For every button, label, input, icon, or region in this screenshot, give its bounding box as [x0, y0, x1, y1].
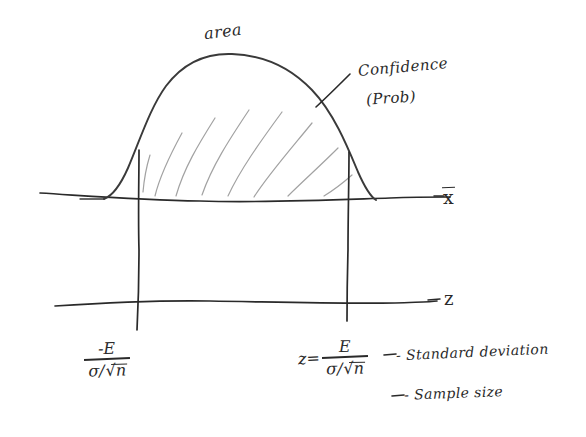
- right-confidence-bound-line: [347, 152, 349, 321]
- left-formula-numerator: -E: [83, 339, 129, 358]
- left-confidence-bound-line: [137, 150, 139, 330]
- lower-axis-line: [55, 301, 437, 306]
- left-formula-sqrt-n: √n: [104, 361, 126, 379]
- upper-axis-line: [40, 193, 450, 202]
- confidence-pointer-line: [316, 74, 350, 107]
- area-hatching: [143, 110, 352, 197]
- whiteboard-sketch-canvas: area Confidence (Prob) x z -E σ/√n z= E …: [0, 0, 586, 437]
- lower-axis-end-tick: [428, 299, 440, 300]
- right-formula-radical-bar: [349, 361, 365, 363]
- right-formula-numerator: E: [322, 338, 368, 357]
- right-formula-sigma: σ: [326, 359, 337, 378]
- n-legend-dash: [392, 395, 404, 396]
- left-bound-formula: -E σ/√n: [83, 339, 130, 379]
- left-formula-sigma: σ: [88, 361, 99, 380]
- z-equals-lead: z=: [298, 348, 321, 368]
- x-bar-axis-label: x: [443, 186, 454, 208]
- z-axis-label: z: [444, 288, 454, 309]
- right-formula-sqrt-n: √n: [342, 359, 364, 377]
- x-bar-axis-label-text: x: [443, 186, 454, 208]
- right-bound-formula: E σ/√n: [322, 338, 369, 378]
- probability-label: (Prob): [365, 87, 416, 108]
- left-formula-denominator: σ/√n: [84, 359, 130, 379]
- right-formula-denominator: σ/√n: [322, 357, 368, 377]
- sigma-legend-dash: [384, 354, 396, 355]
